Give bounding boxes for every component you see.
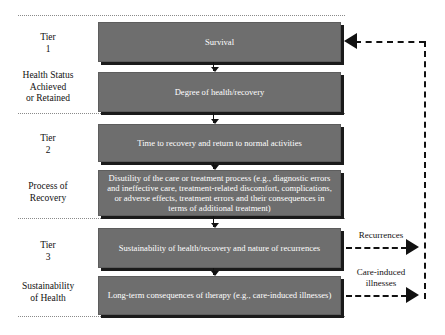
box-degree-of-health-text: Degree of health/recovery	[105, 87, 334, 97]
box-sustainability-of-health-text: Sustainability of health/recovery and na…	[105, 243, 334, 253]
tier-1-dimension-line-3: or Retained	[2, 93, 94, 105]
tier-1-label: Tier 1	[2, 32, 94, 55]
recurrences-arrowhead-icon	[406, 239, 419, 255]
box-long-term-consequences[interactable]: Long-term consequences of therapy (e.g.,…	[98, 276, 341, 315]
tier-separator-top	[18, 15, 345, 16]
connector-arrow-time-to-disutility	[213, 162, 214, 169]
box-time-to-recovery[interactable]: Time to recovery and return to normal ac…	[98, 124, 341, 162]
feedback-loop-spine	[424, 41, 426, 299]
tier-2-number: 2	[2, 145, 94, 157]
box-survival[interactable]: Survival	[98, 22, 341, 62]
tier-1-dimension-line-2: Achieved	[2, 82, 94, 94]
tier-separator-2-3	[18, 218, 345, 219]
diagram-canvas: Tier 1 Health Status Achieved or Retaine…	[0, 0, 445, 335]
connector-arrow-sustainability-to-longterm	[213, 268, 214, 275]
tier-2-dimension-line-1: Process of	[2, 181, 94, 193]
tier-2-dimension-line-2: Recovery	[2, 193, 94, 205]
tier-1-number: 1	[2, 44, 94, 56]
tier-3-word: Tier	[2, 240, 94, 252]
recurrences-arrow-line	[346, 247, 407, 249]
tier-3-number: 3	[2, 252, 94, 264]
tier-3-dimension-line-2: of Health	[2, 293, 94, 305]
recurrences-label: Recurrences	[342, 230, 420, 241]
feedback-loop-top-segment	[355, 41, 425, 43]
care-induced-label-line-2: illnesses	[340, 278, 422, 289]
tier-separator-bottom	[18, 316, 345, 317]
tier-3-label: Tier 3	[2, 240, 94, 263]
tier-2-dimension-label: Process of Recovery	[2, 181, 94, 204]
box-disutility-of-care[interactable]: Disutility of the care or treatment proc…	[98, 170, 341, 216]
box-sustainability-of-health[interactable]: Sustainability of health/recovery and na…	[98, 228, 341, 268]
tier-1-dimension-label: Health Status Achieved or Retained	[2, 70, 94, 105]
tier-1-dimension-line-1: Health Status	[2, 70, 94, 82]
tier-2-label: Tier 2	[2, 133, 94, 156]
care-induced-label-line-1: Care-induced	[340, 267, 422, 278]
box-survival-text: Survival	[105, 37, 334, 47]
box-degree-of-health[interactable]: Degree of health/recovery	[98, 72, 341, 112]
recurrences-label-text: Recurrences	[359, 230, 403, 240]
tier-1-word: Tier	[2, 32, 94, 44]
box-disutility-of-care-text: Disutility of the care or treatment proc…	[105, 173, 334, 214]
connector-arrow-disutility-to-sustainability	[213, 216, 214, 227]
box-long-term-consequences-text: Long-term consequences of therapy (e.g.,…	[105, 290, 334, 300]
care-induced-label: Care-induced illnesses	[340, 267, 422, 288]
care-induced-arrow-line	[346, 295, 407, 297]
feedback-arrowhead-into-survival	[344, 33, 357, 49]
box-time-to-recovery-text: Time to recovery and return to normal ac…	[105, 138, 334, 148]
tier-2-word: Tier	[2, 133, 94, 145]
connector-arrow-degree-to-time	[213, 112, 214, 123]
care-induced-arrowhead-icon	[406, 287, 419, 303]
connector-arrow-survival-to-degree	[213, 62, 214, 71]
tier-separator-1-2	[18, 113, 345, 114]
tier-3-dimension-line-1: Sustainability	[2, 281, 94, 293]
tier-3-dimension-label: Sustainability of Health	[2, 281, 94, 304]
